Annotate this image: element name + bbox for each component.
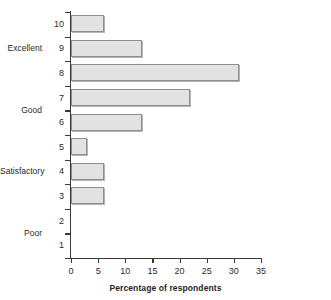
y-axis-tick (65, 37, 71, 38)
y-axis-tick (65, 110, 71, 111)
y-axis-category-label: Poor (0, 229, 42, 238)
bar (71, 163, 104, 180)
y-axis-category-label: Satisfactory (0, 167, 42, 176)
y-axis-tick-label: 1 (46, 241, 64, 250)
y-axis-tick (65, 135, 71, 136)
bar-row (71, 160, 261, 185)
y-axis-tick-label: 7 (46, 94, 64, 103)
x-axis-tick (261, 259, 262, 263)
bar-chart: 12345678910 ExcellentGoodSatisfactoryPoo… (0, 0, 331, 300)
bar-row (71, 135, 261, 160)
bar (71, 138, 87, 155)
bar-row (71, 209, 261, 234)
y-axis-tick (65, 61, 71, 62)
x-axis-tick (207, 259, 208, 263)
x-axis-tick (152, 259, 153, 263)
y-axis-category-label: Excellent (0, 44, 42, 53)
bar-row (71, 61, 261, 86)
y-axis-tick (65, 12, 71, 13)
bar-row (71, 233, 261, 258)
bar (71, 15, 104, 32)
bar (71, 40, 142, 57)
y-axis-tick-label: 5 (46, 143, 64, 152)
y-axis-tick-label: 10 (46, 20, 64, 29)
y-axis-tick-label: 8 (46, 69, 64, 78)
bar-row (71, 184, 261, 209)
y-axis-tick-label: 9 (46, 44, 64, 53)
x-axis-tick-label: 15 (140, 266, 164, 276)
y-axis-tick (65, 233, 71, 234)
y-axis-tick (65, 209, 71, 210)
y-axis-tick (65, 184, 71, 185)
bar (71, 89, 190, 106)
x-axis-tick (71, 259, 72, 263)
y-axis-tick-label: 6 (46, 118, 64, 127)
x-axis-tick-label: 10 (113, 266, 137, 276)
bar (71, 114, 142, 131)
bar-row (71, 12, 261, 37)
x-axis-title: Percentage of respondents (0, 283, 331, 293)
y-axis-tick (65, 160, 71, 161)
x-axis-tick (234, 259, 235, 263)
y-axis-tick (65, 86, 71, 87)
y-axis-tick-label: 2 (46, 217, 64, 226)
bar (71, 187, 104, 204)
x-axis-tick (98, 259, 99, 263)
x-axis-tick (180, 259, 181, 263)
x-axis-tick-label: 20 (168, 266, 192, 276)
bar (71, 64, 239, 81)
plot-area (71, 12, 261, 258)
x-axis-tick-label: 30 (222, 266, 246, 276)
bar-row (71, 86, 261, 111)
x-axis-tick (125, 259, 126, 263)
bar-row (71, 37, 261, 62)
x-axis-tick-label: 25 (195, 266, 219, 276)
y-axis-category-label: Good (0, 106, 42, 115)
y-axis-tick-label: 3 (46, 192, 64, 201)
y-axis-tick-label: 4 (46, 167, 64, 176)
x-axis-tick-label: 5 (86, 266, 110, 276)
bar-row (71, 110, 261, 135)
x-axis-tick-label: 0 (59, 266, 83, 276)
x-axis-tick-label: 35 (249, 266, 273, 276)
